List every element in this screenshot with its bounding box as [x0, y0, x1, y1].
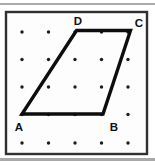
grid-dot [126, 58, 129, 61]
vertex-label-a: A [15, 121, 23, 133]
grid-dot [126, 113, 129, 116]
grid-dot [47, 85, 50, 88]
grid-dot [73, 58, 76, 61]
grid-dot [20, 58, 23, 61]
geoboard-svg: A B C D [0, 0, 155, 166]
grid-dot [47, 30, 50, 33]
grid-dot [20, 141, 23, 144]
grid-dot [100, 85, 103, 88]
vertex-label-b: B [110, 121, 118, 133]
grid-dot [100, 141, 103, 144]
grid-dot [73, 85, 76, 88]
vertex-label-c: C [135, 17, 143, 29]
bottom-shadow [0, 158, 155, 161]
geometry-diagram: A B C D [0, 0, 155, 166]
grid-dot [126, 85, 129, 88]
grid-dot [100, 58, 103, 61]
grid-dot [126, 141, 129, 144]
vertex-label-d: D [74, 15, 82, 27]
grid-dot [47, 58, 50, 61]
grid-dot [20, 30, 23, 33]
grid-dot [20, 85, 23, 88]
grid-dot [47, 141, 50, 144]
grid-dot [73, 141, 76, 144]
